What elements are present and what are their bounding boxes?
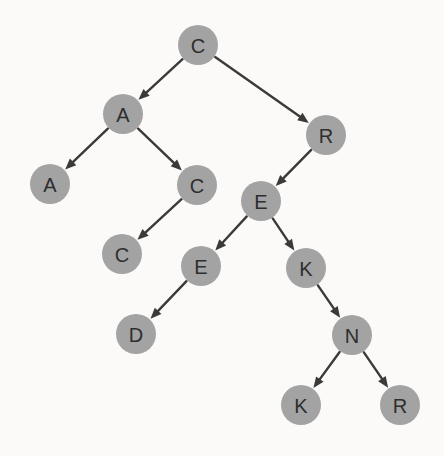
edge-line — [73, 129, 108, 162]
edge-arrowhead-icon — [297, 113, 309, 123]
tree-node[interactable]: R — [380, 385, 420, 425]
tree-node[interactable]: C — [177, 165, 217, 205]
tree-diagram-canvas: CARACECEKDNKR — [0, 0, 444, 456]
edge-line — [223, 216, 247, 242]
edge-line — [138, 129, 174, 163]
node-label: K — [294, 395, 308, 417]
edge-arrowhead-icon — [284, 239, 294, 251]
tree-edge — [138, 59, 182, 100]
edge-line — [318, 285, 334, 308]
tree-node[interactable]: K — [286, 248, 326, 288]
node-label: D — [129, 324, 143, 346]
tree-edge — [313, 352, 339, 388]
tree-edge — [273, 218, 295, 250]
node-label: E — [254, 191, 267, 213]
node-label: A — [43, 174, 57, 196]
tree-node[interactable]: E — [241, 181, 281, 221]
tree-edge — [215, 57, 309, 123]
tree-node[interactable]: A — [30, 164, 70, 204]
tree-node[interactable]: C — [178, 25, 218, 65]
tree-node[interactable]: C — [102, 234, 142, 274]
edge-line — [273, 218, 288, 241]
tree-edge — [151, 281, 187, 319]
node-label: R — [319, 125, 333, 147]
node-label: C — [190, 175, 204, 197]
edge-line — [320, 352, 340, 379]
tree-diagram-svg: CARACECEKDNKR — [0, 0, 444, 456]
edge-line — [283, 150, 311, 178]
node-label: A — [116, 104, 130, 126]
tree-edge — [276, 150, 312, 186]
edge-line — [215, 57, 300, 117]
tree-edge — [215, 216, 247, 250]
node-label: K — [299, 258, 313, 280]
tree-edge — [137, 199, 181, 240]
node-label: N — [345, 325, 359, 347]
node-label: E — [194, 256, 207, 278]
tree-edge — [364, 352, 388, 387]
nodes-layer: CARACECEKDNKR — [30, 25, 420, 425]
node-label: R — [393, 395, 407, 417]
edge-line — [364, 352, 382, 378]
node-label: C — [115, 244, 129, 266]
tree-node[interactable]: E — [181, 246, 221, 286]
tree-edge — [138, 129, 182, 171]
tree-node[interactable]: K — [281, 385, 321, 425]
edge-line — [146, 199, 182, 232]
tree-node[interactable]: A — [103, 94, 143, 134]
tree-edge — [318, 285, 340, 317]
edge-arrowhead-icon — [330, 306, 340, 318]
node-label: C — [191, 35, 205, 57]
tree-node[interactable]: D — [116, 314, 156, 354]
edge-line — [158, 281, 186, 311]
edge-arrowhead-icon — [313, 376, 323, 388]
tree-edge — [65, 129, 108, 170]
edge-line — [147, 59, 183, 92]
tree-node[interactable]: R — [306, 115, 346, 155]
tree-node[interactable]: N — [332, 315, 372, 355]
edge-arrowhead-icon — [378, 376, 388, 388]
